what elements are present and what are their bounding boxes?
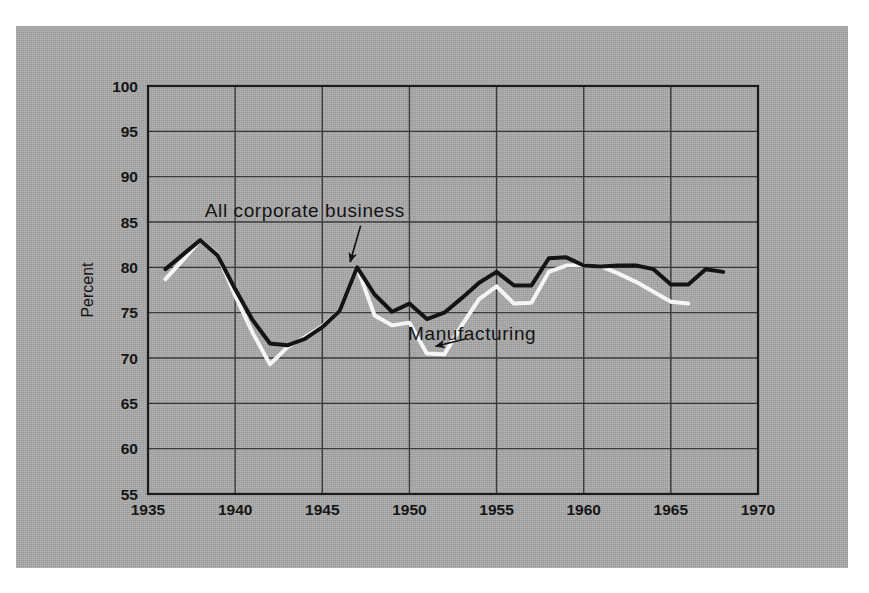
x-tick-label: 1960 [566,501,600,518]
x-tick-label: 1950 [392,501,426,518]
y-tick-label: 65 [121,395,139,412]
y-axis-tick-labels: 556065707580859095100 [112,78,138,503]
y-tick-label: 85 [121,214,139,231]
data-series-layer [165,240,723,364]
x-tick-label: 1955 [479,501,514,518]
x-tick-label: 1945 [305,501,340,518]
y-tick-label: 70 [121,350,138,367]
y-tick-label: 60 [121,440,138,457]
series-annotation-label: Manufacturing [408,323,536,344]
x-tick-label: 1935 [131,501,166,518]
series-annotation-label: All corporate business [205,200,405,221]
y-tick-label: 55 [121,486,139,503]
x-tick-label: 1970 [741,501,775,518]
y-tick-label: 90 [121,168,138,185]
y-tick-label: 95 [121,123,139,140]
y-tick-label: 80 [121,259,138,276]
line-chart: 556065707580859095100 193519401945195019… [0,0,869,593]
grid-lines [148,86,758,494]
annotation-arrow [350,226,360,262]
y-tick-label: 100 [112,78,138,95]
x-tick-label: 1940 [218,501,252,518]
figure-root: 556065707580859095100 193519401945195019… [0,0,869,593]
y-tick-label: 75 [121,304,139,321]
x-axis-tick-labels: 19351940194519501955196019651970 [131,501,775,518]
x-tick-label: 1965 [654,501,689,518]
y-axis-title: Percent [79,262,96,318]
plot-frame [148,86,758,494]
axis-frame [148,86,758,494]
